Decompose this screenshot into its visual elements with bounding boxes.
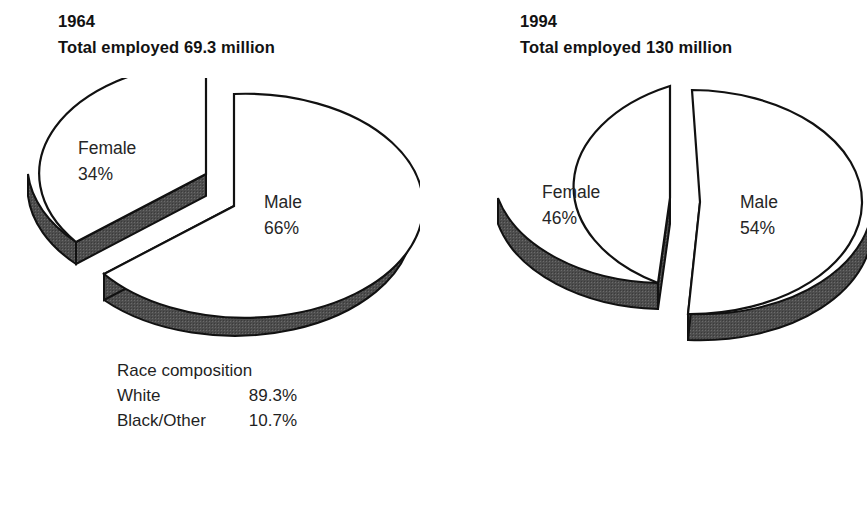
- male-slice-label-1964: Male: [264, 192, 302, 212]
- race-name: Black/Other: [117, 408, 235, 433]
- race-row: White 89.3%: [117, 383, 297, 408]
- male-slice-value-1994: 54%: [740, 218, 775, 238]
- panel-1994-total-employed: Total employed 130 million: [520, 38, 732, 57]
- male-slice-label-1994: Male: [740, 192, 778, 212]
- female-slice-value-1994: 46%: [542, 208, 577, 228]
- race-name: White: [117, 383, 235, 408]
- female-slice-label-1994: Female: [542, 182, 600, 202]
- race-composition-1964: Race composition White 89.3% Black/Other…: [117, 358, 297, 433]
- chart-panel-1994: 1994 Total employed 130 million Male 54%: [462, 0, 867, 517]
- race-value: 10.7%: [235, 408, 297, 433]
- male-slice-value-1964: 66%: [264, 218, 299, 238]
- panel-1964-total-employed: Total employed 69.3 million: [58, 38, 275, 57]
- panel-1994-year: 1994: [520, 12, 557, 31]
- female-slice-value-1964: 34%: [78, 164, 113, 184]
- female-slice-label-1964: Female: [78, 138, 136, 158]
- panel-1964-year: 1964: [58, 12, 95, 31]
- race-row: Black/Other 10.7%: [117, 408, 297, 433]
- chart-panel-1964: 1964 Total employed 69.3 million Male: [0, 0, 470, 517]
- pie-chart-1994: Male 54% Female 46%: [492, 78, 867, 343]
- pie-chart-1964: Male 66% Female 34%: [20, 78, 420, 343]
- male-slice-1994: [688, 90, 867, 340]
- race-value: 89.3%: [235, 383, 297, 408]
- race-composition-title-1964: Race composition: [117, 358, 297, 383]
